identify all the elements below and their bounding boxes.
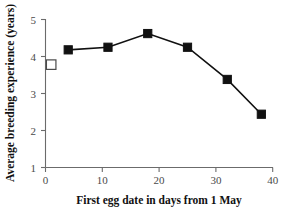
x-tick-label-20: 20 xyxy=(154,174,166,186)
x-axis-title: First egg date in days from 1 May xyxy=(76,194,242,207)
x-tick-label-40: 40 xyxy=(267,174,279,186)
y-axis-title: Average breeding experience (years) xyxy=(4,4,17,182)
line-chart: 5 4 3 2 1 0 10 20 30 40 First egg date i… xyxy=(0,0,286,213)
y-tick-label-5: 5 xyxy=(31,14,37,26)
x-tick-label-0: 0 xyxy=(43,174,49,186)
x-tick-label-30: 30 xyxy=(210,174,222,186)
y-tick-label-3: 3 xyxy=(31,88,37,100)
data-point-marker xyxy=(183,43,191,51)
y-tick-label-1: 1 xyxy=(31,162,37,174)
reference-point-marker xyxy=(46,60,56,70)
y-tick-label-2: 2 xyxy=(31,125,37,137)
data-point-marker xyxy=(257,110,265,118)
y-tick-label-4: 4 xyxy=(31,51,37,63)
data-point-marker xyxy=(104,43,112,51)
chart-container: 5 4 3 2 1 0 10 20 30 40 First egg date i… xyxy=(0,0,286,213)
data-point-marker xyxy=(64,46,72,54)
x-tick-label-10: 10 xyxy=(97,174,109,186)
data-point-marker xyxy=(223,75,231,83)
data-point-marker xyxy=(144,29,152,37)
